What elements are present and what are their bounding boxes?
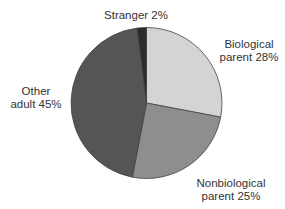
label-line: Stranger 2% xyxy=(104,9,168,22)
label-line: Biological xyxy=(213,38,285,51)
label-other-adult: Other adult 45% xyxy=(6,85,66,111)
pie-slice-biological-parent xyxy=(147,28,222,118)
label-stranger: Stranger 2% xyxy=(104,9,168,22)
label-nonbiological-parent: Nonbiological parent 25% xyxy=(188,177,274,203)
label-line: adult 45% xyxy=(6,98,66,111)
pie-slice-other-adult xyxy=(71,28,146,177)
label-line: Other xyxy=(6,85,66,98)
label-line: parent 28% xyxy=(213,51,285,64)
label-line: parent 25% xyxy=(188,190,274,203)
label-line: Nonbiological xyxy=(188,177,274,190)
pie-slice-nonbiological-parent xyxy=(132,103,220,178)
label-biological-parent: Biological parent 28% xyxy=(213,38,285,64)
